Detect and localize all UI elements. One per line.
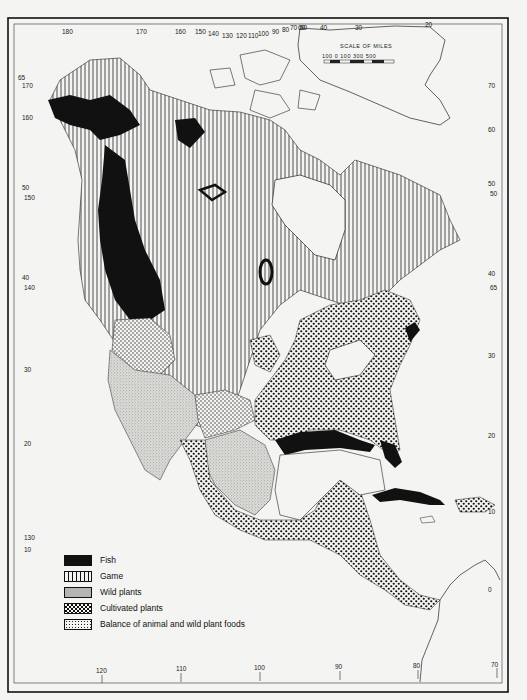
svg-text:40: 40	[488, 270, 496, 277]
svg-text:170: 170	[136, 28, 147, 35]
svg-text:90: 90	[272, 28, 280, 35]
jamaica	[420, 516, 435, 523]
svg-text:140: 140	[208, 30, 219, 37]
cultivated-plants-swatch-icon	[64, 603, 92, 614]
legend-item-balance: Balance of animal and wild plant foods	[64, 616, 245, 632]
svg-text:70: 70	[491, 661, 499, 668]
fish-swatch-icon	[64, 555, 92, 566]
bottom-longitude-labels: 120 110 100 90 80 70	[96, 661, 499, 683]
right-latitude-labels: 70 60 50 50 40 65 30 20 10 0	[488, 82, 498, 593]
svg-text:120: 120	[236, 32, 247, 39]
svg-text:70: 70	[290, 24, 298, 31]
svg-text:65: 65	[18, 74, 26, 81]
left-latitude-labels: 65 170 160 50 150 40 140 30 20 130 10	[18, 74, 35, 553]
legend-item-cultivated-plants: Cultivated plants	[64, 600, 245, 616]
svg-text:130: 130	[24, 534, 35, 541]
svg-text:50: 50	[490, 190, 498, 197]
svg-text:20: 20	[24, 440, 32, 447]
svg-text:10: 10	[24, 546, 32, 553]
legend-label: Cultivated plants	[100, 603, 163, 613]
svg-text:100: 100	[258, 30, 269, 37]
svg-text:50: 50	[488, 180, 496, 187]
balance-swatch-icon	[64, 619, 92, 630]
svg-text:180: 180	[62, 28, 73, 35]
greenland	[298, 26, 450, 125]
svg-text:70: 70	[488, 82, 496, 89]
svg-text:170: 170	[22, 82, 33, 89]
legend-item-wild-plants: Wild plants	[64, 584, 245, 600]
region-balance-southwest	[195, 390, 255, 438]
wild-plants-swatch-icon	[64, 587, 92, 598]
scale-title: SCALE OF MILES	[340, 43, 392, 49]
svg-text:130: 130	[222, 32, 233, 39]
svg-text:50: 50	[22, 184, 30, 191]
legend-item-game: Game	[64, 568, 245, 584]
svg-text:10: 10	[488, 508, 496, 515]
south-america-coast	[440, 560, 500, 600]
legend-item-fish: Fish	[64, 552, 245, 568]
south-america-coast-2	[420, 600, 440, 682]
svg-text:30: 30	[488, 352, 496, 359]
svg-text:160: 160	[175, 28, 186, 35]
svg-text:40: 40	[22, 274, 30, 281]
svg-text:65: 65	[490, 284, 498, 291]
svg-text:80: 80	[413, 662, 421, 669]
svg-text:100 0 100 300 500: 100 0 100 300 500	[322, 53, 376, 59]
svg-text:20: 20	[488, 432, 496, 439]
legend: Fish Game Wild plants Cultivated plants …	[64, 552, 245, 632]
legend-label: Fish	[100, 555, 116, 565]
svg-text:150: 150	[195, 28, 206, 35]
svg-text:30: 30	[24, 366, 32, 373]
game-swatch-icon	[64, 571, 92, 582]
svg-text:90: 90	[335, 663, 343, 670]
svg-text:20: 20	[425, 21, 433, 28]
svg-text:60: 60	[488, 126, 496, 133]
svg-text:0: 0	[488, 586, 492, 593]
legend-label: Wild plants	[100, 587, 142, 597]
svg-text:160: 160	[22, 114, 33, 121]
svg-text:150: 150	[24, 194, 35, 201]
svg-text:100: 100	[254, 664, 265, 671]
svg-text:140: 140	[24, 284, 35, 291]
svg-text:40: 40	[320, 24, 328, 31]
svg-text:110: 110	[176, 665, 187, 672]
legend-label: Balance of animal and wild plant foods	[100, 619, 245, 629]
svg-text:30: 30	[355, 24, 363, 31]
legend-label: Game	[100, 571, 123, 581]
svg-text:80: 80	[282, 26, 290, 33]
svg-text:120: 120	[96, 667, 107, 674]
region-cultivated-plains	[250, 335, 280, 372]
svg-text:50: 50	[300, 24, 308, 31]
